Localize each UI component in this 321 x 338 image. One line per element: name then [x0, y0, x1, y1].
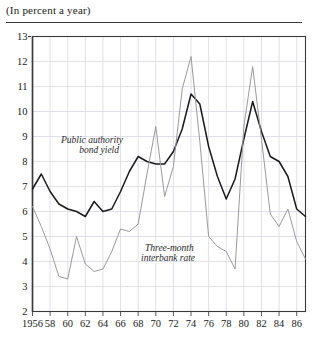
x-axis-tick-label: 80	[239, 318, 250, 329]
x-axis-tick-label: 84	[274, 318, 285, 329]
y-axis-tick-label: 12	[17, 56, 28, 67]
x-axis-tick-label: 74	[186, 318, 197, 329]
x-axis-tick-label: 86	[291, 318, 302, 329]
x-axis-tick-label: 78	[221, 318, 232, 329]
x-axis-tick-label: 68	[133, 318, 144, 329]
x-axis-tick-label: 58	[45, 318, 56, 329]
x-axis-tick-label: 72	[168, 318, 179, 329]
y-axis-tick-label: 6	[22, 206, 27, 217]
x-axis-tick-label: 66	[115, 318, 126, 329]
y-axis-tick-label: 4	[22, 256, 28, 267]
annotation-interbank-line1: Three-month	[145, 243, 194, 253]
x-axis-tick-label: 70	[151, 318, 162, 329]
x-axis-tick-label: 82	[256, 318, 267, 329]
plot-area: 2345678910111213195658606264666870727476…	[0, 0, 321, 338]
y-axis-tick-label: 8	[22, 156, 27, 167]
x-axis-tick-label: 76	[203, 318, 214, 329]
x-axis-tick-label: 60	[62, 318, 73, 329]
x-axis-tick-label: 64	[98, 318, 109, 329]
y-axis-tick-label: 9	[22, 131, 27, 142]
x-axis-tick-label: 1956	[22, 318, 43, 329]
y-axis-tick-label: 5	[22, 231, 27, 242]
y-axis-tick-label: 3	[22, 281, 27, 292]
y-axis-tick-label: 10	[17, 106, 28, 117]
interest-rate-chart: (In percent a year) 23456789101112131956…	[0, 0, 321, 338]
annotation-interbank-line2: interbank rate	[141, 253, 195, 263]
chart-canvas: 2345678910111213195658606264666870727476…	[0, 0, 321, 338]
annotation-bond-yield-line1: Public authority	[60, 135, 124, 145]
y-axis-tick-label: 11	[17, 81, 27, 92]
y-axis-tick-label: 13	[17, 31, 28, 42]
plot-frame	[33, 37, 306, 312]
y-axis-tick-label: 7	[22, 181, 27, 192]
y-axis-tick-label: 2	[22, 306, 27, 317]
series-line-bond-yield	[33, 94, 306, 217]
x-axis-tick-label: 62	[80, 318, 91, 329]
annotation-bond-yield-line2: bond yield	[79, 145, 119, 155]
